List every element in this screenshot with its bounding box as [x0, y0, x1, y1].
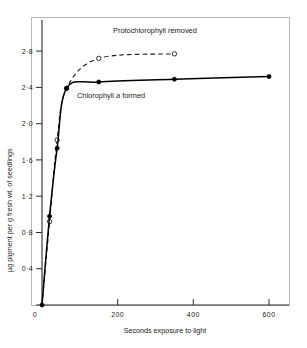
chlorophyll-annotation-suffix: formed [120, 91, 145, 100]
chlorophyll-annotation-label: Chlorophyll a formed [77, 91, 145, 100]
y-tick-label-4: 2·0 [22, 120, 33, 127]
x-tick-label-3: 600 [263, 311, 276, 318]
y-tick-label-6: 2·8 [22, 48, 33, 55]
y-tick-label-1: 0·8 [22, 229, 33, 236]
y-tick-label-0: 0·4 [22, 265, 33, 272]
x-tick-label-1: 200 [111, 311, 124, 318]
data-point-filled [65, 86, 69, 90]
data-point-filled [267, 75, 271, 79]
y-tick-label-3: 1·6 [22, 157, 33, 164]
data-point-filled [55, 146, 59, 150]
data-point-filled [48, 214, 52, 218]
protochlorophyll-annotation-label: Protochlorophyll removed [113, 26, 197, 35]
x-axis-title: Seconds exposure to light [124, 326, 207, 335]
y-tick-label-2: 1·2 [22, 193, 33, 200]
chlorophyll-annotation-prefix: Chlorophyll [77, 91, 116, 100]
chart-figure: 0·4 0·8 1·2 1·6 2·0 2·4 2·8 µg pigment p… [0, 0, 307, 348]
data-point-open [172, 52, 176, 56]
y-tick-label-5: 2·4 [22, 84, 33, 91]
data-point-filled [40, 303, 44, 307]
svg-text:Chlorophyll a formed: Chlorophyll a formed [77, 91, 145, 100]
chart-background [0, 0, 307, 348]
data-point-filled [172, 77, 176, 81]
y-axis-title: µg pigment per g fresh wt. of seedlings [5, 148, 14, 272]
data-point-open [97, 56, 101, 60]
x-tick-label-0: 0 [33, 311, 37, 318]
data-point-filled [97, 80, 101, 84]
x-tick-label-2: 400 [187, 311, 200, 318]
